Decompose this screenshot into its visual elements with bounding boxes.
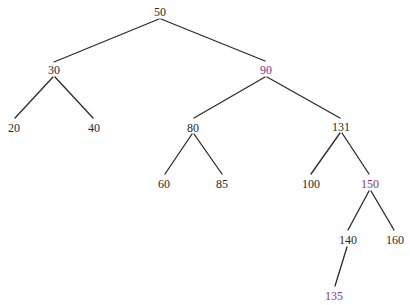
tree-node-80: 80 [187, 122, 199, 134]
tree-node-150: 150 [361, 178, 379, 190]
tree-edge-150-140 [348, 191, 369, 230]
tree-node-140: 140 [339, 234, 357, 246]
tree-node-40: 40 [88, 122, 100, 134]
tree-edge-150-160 [371, 191, 394, 230]
tree-node-50: 50 [154, 6, 166, 18]
tree-node-60: 60 [158, 178, 170, 190]
tree-edge-80-60 [165, 134, 192, 174]
tree-edge-80-85 [194, 134, 222, 174]
tree-edges [0, 0, 410, 305]
tree-edge-140-135 [335, 247, 347, 286]
tree-node-85: 85 [216, 178, 228, 190]
tree-diagram: 5030902040801316085100150140160135 [0, 0, 410, 305]
tree-node-131: 131 [332, 121, 350, 133]
tree-edge-131-150 [342, 133, 369, 174]
tree-node-90: 90 [260, 64, 272, 76]
tree-node-135: 135 [325, 290, 343, 302]
tree-edge-90-131 [267, 77, 340, 118]
tree-edge-50-30 [54, 19, 159, 62]
tree-edge-30-40 [55, 77, 93, 118]
tree-node-160: 160 [386, 234, 404, 246]
tree-edge-30-20 [15, 77, 53, 118]
tree-node-30: 30 [48, 64, 60, 76]
tree-edge-50-90 [161, 19, 265, 61]
tree-edge-131-100 [311, 133, 340, 174]
tree-node-20: 20 [8, 122, 20, 134]
tree-node-100: 100 [302, 178, 320, 190]
tree-edge-90-80 [194, 77, 265, 118]
